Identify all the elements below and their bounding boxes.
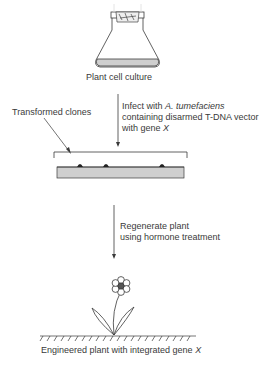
- plant-cell-culture-label: Plant cell culture: [86, 72, 152, 83]
- flower-plant-icon: [92, 277, 134, 335]
- regenerate-step-label: Regenerate plant using hormone treatment: [120, 221, 220, 243]
- engineered-text: Engineered plant with integrated gene: [41, 345, 195, 355]
- gene-name: X: [195, 345, 201, 355]
- transformed-clones-label: Transformed clones: [12, 107, 91, 118]
- arrow-down-icon: [112, 205, 116, 259]
- engineered-plant-label: Engineered plant with integrated gene X: [41, 345, 201, 356]
- pointer-arrow-icon: [44, 118, 71, 154]
- diagram-artwork: [0, 0, 271, 369]
- petri-dish-icon: [54, 152, 187, 178]
- gene-text: with gene: [122, 123, 163, 133]
- flask-icon: [96, 4, 160, 67]
- infect-step-label: Infect with A. tumefaciens containing di…: [122, 101, 258, 134]
- infect-text: Infect with: [122, 101, 165, 111]
- regenerate-line2: using hormone treatment: [120, 232, 220, 243]
- regenerate-line1: Regenerate plant: [120, 221, 220, 232]
- ground-line-icon: [40, 336, 196, 341]
- arrow-down-icon: [116, 94, 120, 147]
- gene-name: X: [163, 123, 169, 133]
- vector-text: containing disarmed T-DNA vector: [122, 112, 258, 123]
- species-name: A. tumefaciens: [165, 101, 225, 111]
